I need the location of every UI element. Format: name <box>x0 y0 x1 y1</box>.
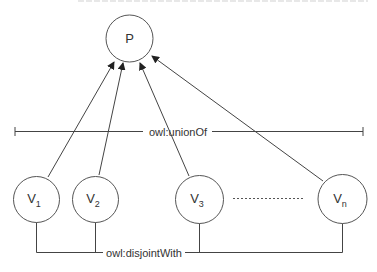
owl-union-diagram: owl:unionOf P owl:disjointWith V1 V2 <box>0 0 377 272</box>
node-vn-base: V <box>333 191 342 206</box>
node-v1[interactable]: V1 <box>14 177 60 223</box>
node-p[interactable]: P <box>106 15 153 62</box>
node-p-label: P <box>125 31 134 46</box>
subclass-arrows <box>48 56 323 181</box>
node-vn-sub: n <box>342 199 347 209</box>
disjoint-with-relation: owl:disjointWith <box>37 222 343 259</box>
node-v2-base: V <box>86 191 95 206</box>
arrow-v3-to-p <box>140 63 189 176</box>
node-v3-base: V <box>190 191 199 206</box>
node-v3-sub: 3 <box>199 199 204 209</box>
node-v1-sub: 1 <box>36 199 41 209</box>
disjoint-with-label: owl:disjointWith <box>106 247 182 259</box>
node-v2[interactable]: V2 <box>73 177 119 223</box>
arrow-vn-to-p <box>152 56 323 181</box>
node-v3[interactable]: V3 <box>176 176 224 224</box>
arrow-v2-to-p <box>99 63 123 175</box>
union-of-relation: owl:unionOf <box>15 126 363 138</box>
node-vn[interactable]: Vn <box>318 175 367 224</box>
node-v2-sub: 2 <box>95 199 100 209</box>
arrow-v1-to-p <box>48 62 114 177</box>
union-of-label: owl:unionOf <box>149 126 208 138</box>
node-v1-base: V <box>27 191 36 206</box>
